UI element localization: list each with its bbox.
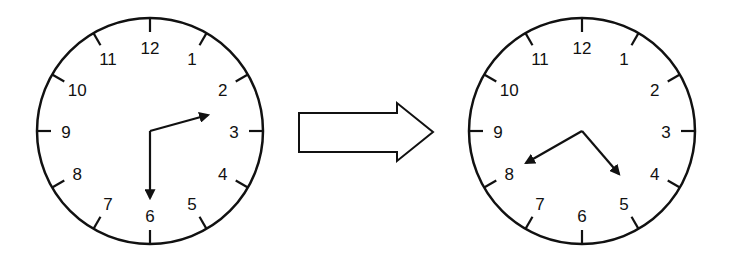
hour-number: 8	[505, 165, 514, 184]
hour-number: 9	[61, 123, 70, 142]
hour-number: 5	[619, 195, 628, 214]
hour-number: 3	[229, 123, 238, 142]
hour-number: 4	[218, 165, 227, 184]
hour-number: 5	[187, 195, 196, 214]
hour-number: 6	[145, 207, 154, 226]
hour-number: 1	[187, 50, 196, 69]
hour-number: 9	[493, 123, 502, 142]
hour-number: 11	[99, 50, 117, 69]
hour-number: 10	[68, 81, 87, 100]
hour-number: 6	[577, 207, 586, 226]
hour-number: 8	[73, 165, 82, 184]
right-arrow-icon	[299, 103, 433, 161]
left-clock: 121234567891011	[37, 18, 263, 244]
hour-number: 11	[531, 50, 549, 69]
hour-number: 1	[619, 50, 628, 69]
hour-number: 3	[661, 123, 670, 142]
hour-number: 10	[500, 81, 519, 100]
right-clock: 121234567891011	[469, 18, 695, 244]
hour-number: 12	[141, 39, 160, 58]
hour-number: 2	[650, 81, 659, 100]
hour-number: 4	[650, 165, 659, 184]
hour-number: 7	[103, 195, 112, 214]
diagram-canvas: 121234567891011 121234567891011	[0, 0, 731, 261]
hour-number: 7	[535, 195, 544, 214]
hour-number: 12	[573, 39, 592, 58]
hour-number: 2	[218, 81, 227, 100]
